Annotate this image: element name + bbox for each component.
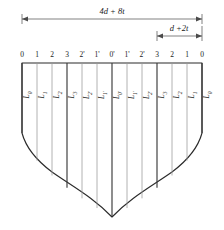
- tick-label: 1': [124, 50, 130, 59]
- tick-label-row: 01232'1'0'1'2'3210: [20, 50, 204, 59]
- tick-label: 1': [94, 50, 100, 59]
- tick-label: 2: [50, 50, 54, 59]
- tick-label: 2': [79, 50, 85, 59]
- tick-label: 0: [20, 50, 24, 59]
- dimension-partial-label: d +2t: [170, 23, 189, 33]
- segment-label-subscript: 2: [177, 91, 183, 94]
- tick-label: 0': [109, 50, 115, 59]
- arrowhead-partial-right: [196, 34, 202, 39]
- segment-label-subscript: 3: [162, 91, 168, 95]
- tick-label: 0: [200, 50, 204, 59]
- tick-label: 1: [35, 50, 39, 59]
- tick-label: 3: [155, 50, 159, 59]
- segment-label-text: L0: [202, 91, 213, 99]
- arrowhead-left: [22, 17, 28, 22]
- dimension-partial: d +2t: [157, 23, 202, 41]
- tick-label: 2: [170, 50, 174, 59]
- dimension-overall-label: 4d + 8t: [99, 6, 125, 16]
- segment-label-subscript: 0: [207, 91, 213, 94]
- segment-label-subscript: 1: [42, 91, 48, 94]
- technical-diagram: 4d + 8t d +2t 01232'1'0'1'2'3210 L0L1L2L…: [0, 0, 224, 230]
- segment-label-subscript: 3: [72, 91, 78, 95]
- tick-label: 3: [65, 50, 69, 59]
- segment-label-subscript: 0: [27, 91, 33, 94]
- segment-label: L0: [202, 91, 213, 99]
- tick-label: 1: [185, 50, 189, 59]
- segment-label-subscript: 2: [57, 91, 63, 94]
- dimension-overall: 4d + 8t: [22, 6, 202, 24]
- diagram-canvas: 4d + 8t d +2t 01232'1'0'1'2'3210 L0L1L2L…: [0, 0, 224, 230]
- segment-label-subscript: 1: [192, 91, 198, 94]
- arrowhead-right: [196, 17, 202, 22]
- arrowhead-partial-left: [157, 34, 163, 39]
- tick-label: 2': [139, 50, 145, 59]
